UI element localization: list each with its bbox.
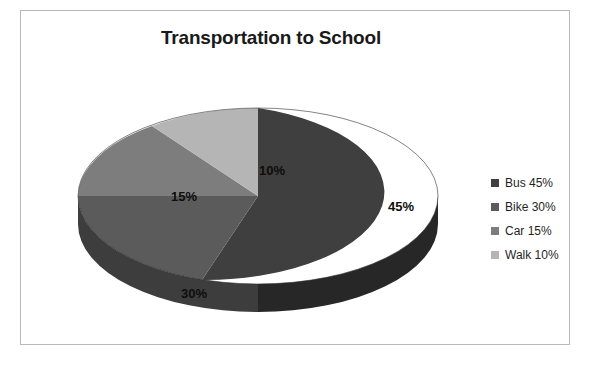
legend-swatch-bike-icon	[491, 203, 499, 211]
legend-label-car: Car 15%	[505, 224, 552, 238]
pie-chart-svg	[61, 71, 461, 321]
pie-label-car: 15%	[171, 189, 197, 204]
pie-label-walk: 10%	[259, 163, 285, 178]
legend-swatch-car-icon	[491, 227, 499, 235]
legend-label-walk: Walk 10%	[505, 248, 559, 262]
chart-title: Transportation to School	[21, 27, 521, 49]
legend-swatch-bus-icon	[491, 179, 499, 187]
pie-label-bike: 30%	[181, 286, 207, 301]
chart-frame: Transportation to School	[20, 10, 570, 345]
legend-swatch-walk-icon	[491, 251, 499, 259]
pie-top-face	[78, 108, 384, 280]
legend-label-bus: Bus 45%	[505, 176, 553, 190]
legend-item-car[interactable]: Car 15%	[491, 219, 591, 243]
pie-chart-plot-area: 45% 30% 15% 10%	[61, 71, 461, 321]
legend-label-bike: Bike 30%	[505, 200, 556, 214]
legend-item-bus[interactable]: Bus 45%	[491, 171, 591, 195]
legend-item-bike[interactable]: Bike 30%	[491, 195, 591, 219]
pie-label-bus: 45%	[388, 199, 414, 214]
chart-legend: Bus 45% Bike 30% Car 15% Walk 10%	[491, 171, 591, 267]
legend-item-walk[interactable]: Walk 10%	[491, 243, 591, 267]
